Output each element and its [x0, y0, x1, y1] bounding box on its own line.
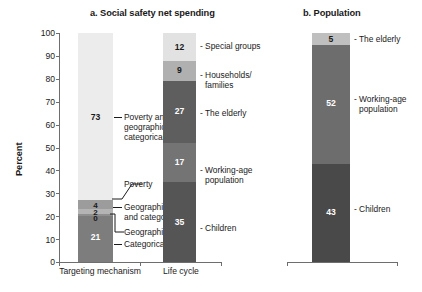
- annotation-children: - Children: [200, 223, 236, 233]
- y-tick-label: 0: [33, 257, 55, 267]
- annotation-poverty: Poverty: [124, 179, 152, 189]
- segment-value-35: 35: [163, 218, 196, 227]
- y-tick-mark: [56, 102, 59, 103]
- x-axis-end-tick-right-b: [397, 262, 398, 266]
- segment-value-17: 17: [163, 158, 196, 167]
- y-tick-label: 10: [33, 235, 55, 245]
- segment-value-52: 52: [312, 99, 350, 108]
- annotation-the-elderly-b: - The elderly: [354, 34, 400, 44]
- leader-line-poverty-geo-cat: [114, 117, 122, 118]
- leader-line-categorical: [114, 244, 122, 245]
- y-tick-mark: [56, 170, 59, 171]
- x-axis-label-lifecycle: Life cycle: [150, 266, 212, 276]
- bar-population: 5 52 43: [312, 33, 350, 262]
- y-tick-mark: [56, 33, 59, 34]
- y-tick-label: 60: [33, 120, 55, 130]
- annotation-line: - Working-age: [200, 165, 252, 175]
- y-tick-mark: [56, 56, 59, 57]
- y-tick-label: 50: [33, 143, 55, 153]
- y-tick-label: 30: [33, 189, 55, 199]
- y-tick-label: 20: [33, 212, 55, 222]
- y-tick-label: 90: [33, 51, 55, 61]
- annotation-children-b: - Children: [354, 204, 390, 214]
- x-axis-line-b: [287, 262, 398, 263]
- segment-value-12: 12: [163, 43, 196, 52]
- segment-value-5: 5: [312, 35, 350, 44]
- annotation-line: population: [354, 104, 406, 114]
- segment-value-9: 9: [163, 66, 196, 75]
- segment-value-73: 73: [78, 113, 113, 122]
- y-tick-label: 100: [33, 28, 55, 38]
- annotation-special-groups: - Special groups: [200, 41, 261, 51]
- annotation-line: families: [200, 80, 252, 90]
- annotation-categorical: Categorical: [124, 239, 166, 249]
- chart-figure: a. Social safety net spending Percent 10…: [0, 0, 422, 292]
- segment-value-43: 43: [312, 208, 350, 217]
- y-tick-mark: [56, 148, 59, 149]
- y-tick-mark: [56, 125, 59, 126]
- y-tick-label: 80: [33, 74, 55, 84]
- panel-a-title: a. Social safety net spending: [90, 8, 215, 18]
- x-axis-end-tick-left-b: [287, 262, 288, 266]
- annotation-the-elderly: - The elderly: [200, 108, 246, 118]
- y-tick-label: 70: [33, 97, 55, 107]
- y-tick-mark: [56, 216, 59, 217]
- y-tick-mark: [56, 79, 59, 80]
- annotation-line: - Working-age: [354, 94, 406, 104]
- y-tick-mark: [56, 193, 59, 194]
- annotation-line: - Households/: [200, 70, 252, 80]
- bar-life-cycle: 12 9 27 17 35: [163, 33, 196, 262]
- annotation-line: population: [200, 175, 252, 185]
- y-tick-mark: [56, 239, 59, 240]
- x-axis-end-tick-right: [221, 262, 222, 266]
- segment-value-27: 27: [163, 107, 196, 116]
- annotation-working-age-b: - Working-age population: [354, 94, 406, 114]
- leader-line-geo-and-categorical: [113, 207, 122, 208]
- y-axis-title: Percent: [14, 143, 24, 176]
- y-tick-label: 40: [33, 166, 55, 176]
- annotation-working-age: - Working-age population: [200, 165, 252, 185]
- annotation-households-families: - Households/ families: [200, 70, 252, 90]
- y-axis-line: [59, 33, 60, 263]
- panel-b-title: b. Population: [303, 8, 361, 18]
- x-axis-label-targeting: Targeting mechanism: [55, 266, 145, 276]
